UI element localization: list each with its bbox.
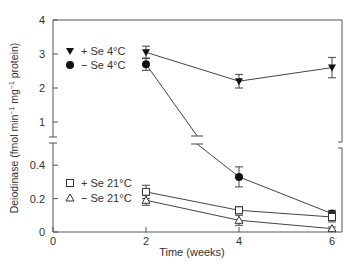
square-marker bbox=[143, 188, 150, 195]
x-axis-label: Time (weeks) bbox=[159, 246, 225, 258]
y-tick-label: 0 bbox=[39, 226, 45, 238]
data-series bbox=[142, 46, 336, 231]
y-label-superscript: −1 bbox=[8, 81, 15, 89]
triangle-down-marker bbox=[66, 48, 74, 55]
y-tick-label: 1 bbox=[39, 116, 45, 128]
x-tick-label: 4 bbox=[236, 235, 242, 247]
legend-entry-label: − Se 21°C bbox=[81, 192, 132, 204]
legend: + Se 4°C− Se 4°C+ Se 21°C− Se 21°C bbox=[66, 45, 132, 204]
square-marker bbox=[329, 213, 336, 220]
deiodinase-chart: 00.20.412340246 + Se 4°C− Se 4°C+ Se 21°… bbox=[0, 0, 359, 273]
y-tick-label: 0.4 bbox=[30, 159, 45, 171]
series-line bbox=[239, 210, 332, 217]
square-marker bbox=[236, 207, 243, 214]
series-line bbox=[146, 52, 239, 81]
x-tick-label: 2 bbox=[143, 235, 149, 247]
y-tick-label: 2 bbox=[39, 82, 45, 94]
legend-lower-left: + Se 21°C− Se 21°C bbox=[66, 177, 132, 204]
series-line bbox=[239, 68, 332, 82]
legend-upper-left: + Se 4°C− Se 4°C bbox=[66, 45, 126, 71]
legend-entry-label: + Se 21°C bbox=[81, 177, 132, 189]
chart-svg: 00.20.412340246 + Se 4°C− Se 4°C+ Se 21°… bbox=[0, 0, 359, 273]
legend-entry-label: − Se 4°C bbox=[81, 59, 126, 71]
series-line bbox=[146, 64, 197, 136]
circle-marker bbox=[142, 60, 150, 68]
y-label-part: protein) bbox=[8, 43, 20, 82]
series-line bbox=[146, 200, 239, 220]
y-tick-label: 4 bbox=[39, 14, 45, 26]
x-tick-label: 0 bbox=[50, 235, 56, 247]
y-tick-label: 3 bbox=[39, 48, 45, 60]
triangle-up-marker bbox=[142, 196, 150, 203]
triangle-down-marker bbox=[235, 78, 243, 85]
y-label-superscript: −1 bbox=[8, 107, 15, 115]
y-tick-label: 0.2 bbox=[30, 193, 45, 205]
x-tick-label: 6 bbox=[329, 235, 335, 247]
y-axis-label: Deiodinase (fmol min−1 mg−1 protein) bbox=[8, 43, 20, 214]
triangle-up-marker bbox=[66, 194, 74, 201]
series-0 bbox=[142, 46, 336, 88]
series-line bbox=[146, 192, 239, 210]
circle-marker bbox=[235, 173, 243, 181]
series-line bbox=[239, 220, 332, 228]
series-line bbox=[197, 144, 239, 177]
y-label-part: mg bbox=[8, 89, 20, 107]
circle-marker bbox=[66, 61, 74, 69]
legend-entry-label: + Se 4°C bbox=[81, 45, 126, 57]
square-marker bbox=[67, 180, 74, 187]
series-line bbox=[239, 177, 332, 214]
y-label-part: Deiodinase (fmol min bbox=[8, 115, 20, 214]
axes: 00.20.412340246 bbox=[30, 14, 342, 247]
